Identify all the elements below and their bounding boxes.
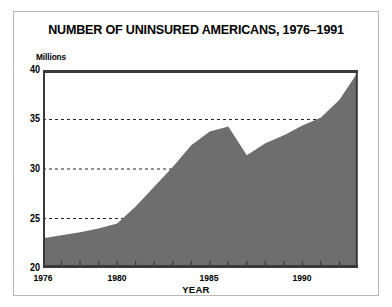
y-tick-label-40: 40: [17, 64, 40, 75]
area-chart-svg: [43, 70, 358, 268]
x-tick-label-1980: 1980: [99, 272, 135, 283]
x-tick-label-1976: 1976: [25, 272, 61, 283]
y-tick-label-30: 30: [17, 163, 40, 174]
y-axis-unit-label: Millions: [36, 52, 66, 62]
x-tick-label-1985: 1985: [191, 272, 227, 283]
plot-area: [43, 70, 358, 268]
x-tick-label-1990: 1990: [284, 272, 320, 283]
uninsured-area-series: [43, 72, 358, 268]
chart-title: NUMBER OF UNINSURED AMERICANS, 1976–1991: [14, 22, 379, 37]
y-tick-label-25: 25: [17, 213, 40, 224]
chart-page: NUMBER OF UNINSURED AMERICANS, 1976–1991…: [0, 0, 392, 307]
x-axis-title: YEAR: [0, 284, 392, 295]
y-tick-label-35: 35: [17, 113, 40, 124]
